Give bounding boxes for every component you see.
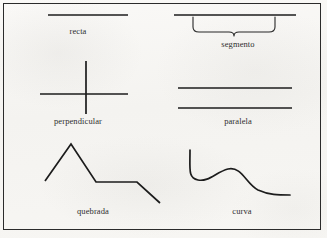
figure-curva: curva bbox=[172, 144, 312, 222]
caption-quebrada: quebrada bbox=[18, 206, 168, 216]
figure-perpendicular: perpendicular bbox=[18, 58, 138, 130]
curva-drawing bbox=[172, 144, 312, 210]
caption-perpendicular: perpendicular bbox=[18, 116, 138, 126]
paralela-drawing bbox=[168, 72, 308, 116]
perpendicular-drawing bbox=[18, 58, 138, 120]
figure-segmento: segmento bbox=[168, 6, 308, 58]
figure-quebrada: quebrada bbox=[18, 136, 168, 222]
caption-curva: curva bbox=[172, 206, 312, 216]
brace-icon bbox=[193, 17, 275, 36]
caption-recta: recta bbox=[18, 26, 138, 36]
illustration-page: recta segmento perpendicular paralela qu… bbox=[0, 0, 327, 238]
caption-paralela: paralela bbox=[168, 116, 308, 126]
figure-paralela: paralela bbox=[168, 72, 308, 130]
quebrada-drawing bbox=[18, 136, 168, 210]
figure-recta: recta bbox=[18, 6, 138, 48]
caption-segmento: segmento bbox=[168, 39, 308, 49]
